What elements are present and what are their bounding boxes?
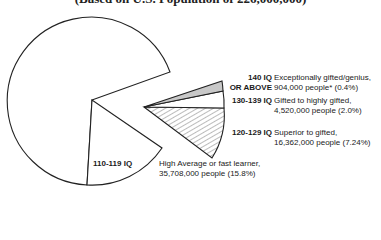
label-130-iq: 130-139 IQ bbox=[222, 96, 272, 106]
label-130-iq-text: 130-139 IQ bbox=[222, 96, 272, 106]
label-140-iq-line2: OR ABOVE bbox=[222, 83, 272, 93]
slice-110-119 bbox=[87, 100, 162, 185]
label-120-description: Superior to gifted, bbox=[274, 128, 371, 138]
label-130-desc: Gifted to highly gifted, 4,520,000 peopl… bbox=[274, 96, 362, 115]
label-130-description: Gifted to highly gifted, bbox=[274, 96, 362, 106]
label-110-people: 35,708,000 people (15.8%) bbox=[159, 169, 260, 179]
label-120-desc: Superior to gifted, 16,362,000 people (7… bbox=[274, 128, 371, 147]
label-110-iq-text: 110-119 IQ bbox=[93, 159, 132, 169]
label-110-description: High Average or fast learner, bbox=[159, 159, 260, 169]
label-120-people: 16,362,000 people (7.24%) bbox=[274, 138, 371, 148]
label-140-desc: Exceptionally gifted/genius, 904,000 peo… bbox=[274, 73, 371, 92]
label-120-iq: 120-129 IQ bbox=[222, 128, 272, 138]
label-110-desc: High Average or fast learner, 35,708,000… bbox=[159, 159, 260, 178]
label-120-iq-text: 120-129 IQ bbox=[222, 128, 272, 138]
label-140-iq-line1: 140 IQ bbox=[222, 73, 272, 83]
label-140-people: 904,000 people* (0.4%) bbox=[274, 83, 371, 93]
label-140-description: Exceptionally gifted/genius, bbox=[274, 73, 371, 83]
label-130-people: 4,520,000 people (2.0%) bbox=[274, 106, 362, 116]
label-140-iq: 140 IQ OR ABOVE bbox=[222, 73, 272, 92]
label-110-iq: 110-119 IQ bbox=[93, 159, 132, 169]
